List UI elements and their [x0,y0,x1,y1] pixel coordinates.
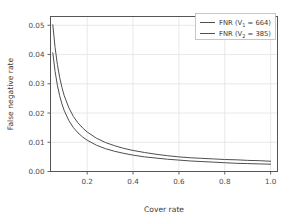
y-tick-label: 0.00 [28,167,44,176]
y-axis-title: False negative rate [6,57,15,130]
y-tick-label: 0.05 [28,21,44,30]
x-axis-ticks: 0.20.40.60.81.0 [81,172,276,186]
x-tick-label: 0.4 [127,177,139,186]
x-tick-label: 0.6 [173,177,185,186]
series-line-1 [53,25,271,162]
x-axis-title: Cover rate [144,205,184,214]
x-tick-label: 0.2 [81,177,92,186]
series-line-2 [53,53,271,164]
data-series-group [53,25,271,165]
y-tick-label: 0.03 [28,79,44,88]
y-tick-label: 0.04 [28,50,44,59]
chart-canvas: 0.20.40.60.81.0 0.000.010.020.030.040.05… [0,0,299,223]
x-tick-label: 1.0 [265,177,277,186]
legend-label-1: FNR (V1 = 664) [219,19,271,28]
x-tick-label: 0.8 [219,177,231,186]
figure-container: 0.20.40.60.81.0 0.000.010.020.030.040.05… [0,0,299,223]
legend-label-2: FNR (V2 = 385) [219,30,271,39]
chart-legend: FNR (V1 = 664)FNR (V2 = 385) [196,14,276,40]
y-tick-label: 0.02 [28,109,44,118]
y-axis-ticks: 0.000.010.020.030.040.05 [28,21,50,176]
y-tick-label: 0.01 [28,138,44,147]
